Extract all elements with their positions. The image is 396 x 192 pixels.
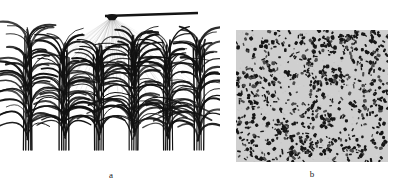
grain-dot xyxy=(300,100,301,101)
grain-dot xyxy=(387,84,388,86)
grain-dot xyxy=(383,142,384,143)
grain-dot xyxy=(309,103,310,104)
grain-dot xyxy=(340,161,341,162)
grain-dot xyxy=(331,66,332,68)
grain-dot xyxy=(266,113,267,115)
sunfleck xyxy=(252,134,255,137)
grain-dot xyxy=(376,155,378,156)
grain-dot xyxy=(375,135,376,136)
sunfleck xyxy=(312,110,314,112)
grain-dot xyxy=(288,161,290,162)
grain-dot xyxy=(372,110,373,112)
grain-dot xyxy=(253,51,255,52)
grain-dot xyxy=(354,143,356,144)
grain-dot xyxy=(258,84,259,86)
grain-dot xyxy=(380,137,381,138)
grain-dot xyxy=(279,99,280,100)
grain-dot xyxy=(278,130,279,131)
figure-root: a b xyxy=(0,0,396,192)
grain-dot xyxy=(264,131,266,132)
grain-dot xyxy=(344,127,346,128)
grain-dot xyxy=(237,109,238,110)
sunfleck xyxy=(369,111,371,116)
grain-dot xyxy=(266,109,267,110)
grain-dot xyxy=(387,68,388,70)
grain-dot xyxy=(337,48,338,49)
grain-dot xyxy=(284,114,286,115)
grain-dot xyxy=(262,123,263,125)
grain-dot xyxy=(365,105,367,107)
grain-dot xyxy=(306,110,308,111)
grain-dot xyxy=(355,31,356,32)
grain-dot xyxy=(268,43,269,45)
grain-dot xyxy=(351,35,353,36)
grain-dot xyxy=(353,35,354,36)
grain-dot xyxy=(309,130,311,131)
sunfleck xyxy=(320,44,325,48)
grain-dot xyxy=(246,152,247,153)
grain-dot xyxy=(284,65,285,66)
grain-dot xyxy=(376,95,378,96)
grain-dot xyxy=(373,93,375,95)
grain-dot xyxy=(249,83,251,84)
sunfleck xyxy=(290,138,293,142)
grain-dot xyxy=(241,116,243,117)
leaf xyxy=(0,22,28,44)
sunfleck xyxy=(259,44,263,48)
grain-dot xyxy=(338,95,339,97)
grain-dot xyxy=(347,34,349,35)
grain-dot xyxy=(318,77,320,78)
grain-dot xyxy=(300,31,301,32)
grain-dot xyxy=(368,106,369,107)
grain-dot xyxy=(361,159,362,161)
grain-dot xyxy=(331,39,333,41)
grain-dot xyxy=(336,36,337,38)
grain-dot xyxy=(276,32,278,33)
panel-b-label: b xyxy=(297,169,327,179)
sunfleck xyxy=(252,30,254,31)
grain-dot xyxy=(379,45,381,46)
grain-dot xyxy=(325,137,326,138)
sunfleck xyxy=(293,103,296,105)
grain-dot xyxy=(304,85,305,87)
grain-dot xyxy=(303,87,304,88)
grain-dot xyxy=(311,115,313,116)
grain-dot xyxy=(267,118,268,119)
grain-dot xyxy=(321,143,323,145)
sunfleck xyxy=(311,63,314,66)
grain-dot xyxy=(366,40,367,41)
grain-dot xyxy=(248,54,249,55)
grain-dot xyxy=(244,123,245,125)
grain-dot xyxy=(335,117,337,118)
grain-dot xyxy=(249,36,251,37)
grain-dot xyxy=(316,57,317,59)
grain-dot xyxy=(270,33,271,34)
grain-dot xyxy=(285,80,286,81)
grain-dot xyxy=(269,143,270,144)
grain-dot xyxy=(352,120,354,121)
grain-dot xyxy=(317,141,319,143)
grain-dot xyxy=(349,131,350,133)
grain-dot xyxy=(319,35,320,37)
grain-dot xyxy=(381,152,382,153)
grain-dot xyxy=(348,51,349,53)
top-blade xyxy=(25,36,26,71)
grain-dot xyxy=(260,82,262,84)
grain-dot xyxy=(293,121,294,123)
grain-dot xyxy=(321,121,323,122)
grain-dot xyxy=(304,113,305,114)
grain-dot xyxy=(266,157,267,159)
grain-dot xyxy=(313,69,314,70)
grain-dot xyxy=(313,157,315,159)
grain-dot xyxy=(314,85,316,87)
grain-dot xyxy=(362,127,364,129)
grain-dot xyxy=(335,60,336,61)
grain-dot xyxy=(263,150,264,152)
grain-dot xyxy=(257,129,259,130)
grain-dot xyxy=(296,77,297,78)
sunfleck xyxy=(319,70,323,74)
grain-dot xyxy=(252,34,254,35)
grain-dot xyxy=(322,80,323,82)
grain-dot xyxy=(301,71,302,72)
grain-dot xyxy=(373,145,374,147)
